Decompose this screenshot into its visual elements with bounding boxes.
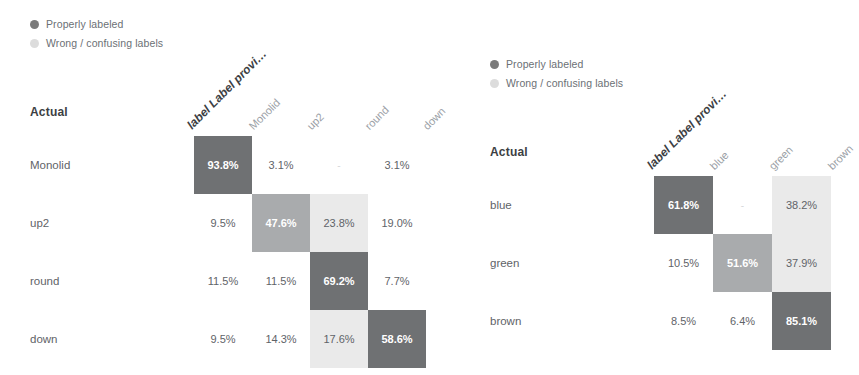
matrix-cell[interactable]: 8.5% [654, 292, 713, 350]
matrix-cell[interactable]: 69.2% [310, 252, 368, 310]
matrix-cell[interactable]: 93.8% [194, 136, 252, 194]
matrix-cell-value: 37.9% [786, 257, 817, 269]
row-label-green: green [490, 234, 640, 292]
matrix-cell[interactable]: 85.1% [772, 292, 831, 350]
matrix-cell[interactable]: 14.3% [252, 310, 310, 368]
matrix-cell-value: 51.6% [727, 257, 758, 269]
matrix-cell-value: 11.5% [208, 275, 238, 287]
matrix-cell-value: 17.6% [323, 333, 354, 345]
legend-item-properly-labeled: Properly labeled [490, 56, 623, 72]
matrix-row: down9.5%14.3%17.6%58.6% [194, 310, 426, 368]
matrix-cell-value: 61.8% [668, 199, 699, 211]
column-header-up2: up2 [304, 111, 325, 132]
row-label-down: down [30, 310, 180, 368]
matrix-cell-value: 11.5% [266, 275, 296, 287]
matrix-cell[interactable]: 9.5% [194, 310, 252, 368]
matrix-cell[interactable]: 11.5% [252, 252, 310, 310]
matrix-cell[interactable]: 3.1% [368, 136, 426, 194]
matrix-row: up29.5%47.6%23.8%19.0% [194, 194, 426, 252]
matrix-cell[interactable]: 9.5% [194, 194, 252, 252]
matrix-cell-value: 14.3% [265, 333, 296, 345]
matrix-cell[interactable]: 10.5% [654, 234, 713, 292]
matrix-cell-value: 38.2% [786, 199, 817, 211]
matrix-cell[interactable]: 6.4% [713, 292, 772, 350]
row-label-blue: blue [490, 176, 640, 234]
matrix-cell[interactable]: 17.6% [310, 310, 368, 368]
matrix-cell[interactable]: 11.5% [194, 252, 252, 310]
legend-item-properly-labeled: Properly labeled [30, 16, 163, 32]
column-header-brown: brown [825, 142, 855, 172]
matrix-cell-value: 8.5% [671, 315, 696, 327]
matrix-cell[interactable]: 61.8% [654, 176, 713, 234]
row-label-monolid: Monolid [30, 136, 180, 194]
matrix-cell-value: 85.1% [786, 315, 817, 327]
axis-title-actual-right: Actual [490, 132, 640, 172]
matrix-cell-value: 9.5% [210, 333, 235, 345]
matrix-cell[interactable]: 3.1% [252, 136, 310, 194]
legend-label-properly-labeled: Properly labeled [506, 58, 583, 70]
legend-right: Properly labeled Wrong / confusing label… [490, 56, 623, 94]
axis-title-actual-right-text: Actual [490, 145, 528, 159]
matrix-cell[interactable]: 23.8% [310, 194, 368, 252]
matrix-cell[interactable]: 58.6% [368, 310, 426, 368]
matrix-cell-value: 23.8% [323, 217, 354, 229]
matrix-cell-value: 6.4% [730, 315, 755, 327]
matrix-grid-right: blue61.8%-38.2%green10.5%51.6%37.9%brown… [654, 176, 831, 350]
matrix-cell-value: 58.6% [381, 333, 412, 345]
legend-swatch-properly-labeled [490, 60, 499, 69]
matrix-cell[interactable]: 7.7% [368, 252, 426, 310]
matrix-cell-value: - [337, 160, 340, 171]
matrix-cell[interactable]: 19.0% [368, 194, 426, 252]
matrix-row: Monolid93.8%3.1%-3.1% [194, 136, 426, 194]
legend-swatch-wrong-labels [30, 39, 39, 48]
matrix-cell[interactable]: 47.6% [252, 194, 310, 252]
legend-swatch-properly-labeled [30, 20, 39, 29]
matrix-cell-value: 19.0% [381, 217, 412, 229]
matrix-cell[interactable]: 37.9% [772, 234, 831, 292]
row-label-up2: up2 [30, 194, 180, 252]
legend-label-properly-labeled: Properly labeled [46, 18, 123, 30]
matrix-cell-value: - [741, 200, 744, 211]
matrix-row: brown8.5%6.4%85.1% [654, 292, 831, 350]
column-header-down: down [420, 105, 447, 132]
matrix-cell-value: 3.1% [268, 159, 293, 171]
row-label-brown: brown [490, 292, 640, 350]
matrix-cell-value: 47.6% [265, 217, 296, 229]
column-header-green: green [766, 144, 794, 172]
matrix-row: green10.5%51.6%37.9% [654, 234, 831, 292]
matrix-cell-value: 93.8% [207, 159, 238, 171]
axis-title-actual-left: Actual [30, 92, 180, 132]
matrix-row: blue61.8%-38.2% [654, 176, 831, 234]
column-header-blue: blue [707, 149, 730, 172]
matrix-cell[interactable]: 51.6% [713, 234, 772, 292]
legend-swatch-wrong-labels [490, 79, 499, 88]
matrix-grid-left: Monolid93.8%3.1%-3.1%up29.5%47.6%23.8%19… [194, 136, 426, 368]
legend-label-wrong-labels: Wrong / confusing labels [506, 77, 623, 89]
row-label-round: round [30, 252, 180, 310]
legend-item-wrong-labels: Wrong / confusing labels [490, 75, 623, 91]
legend-label-wrong-labels: Wrong / confusing labels [46, 37, 163, 49]
matrix-cell[interactable]: - [310, 136, 368, 194]
matrix-row: round11.5%11.5%69.2%7.7% [194, 252, 426, 310]
matrix-cell-value: 10.5% [668, 257, 699, 269]
column-header-monolid: Monolid [246, 96, 282, 132]
legend-item-wrong-labels: Wrong / confusing labels [30, 35, 163, 51]
matrix-cell-value: 69.2% [323, 275, 354, 287]
matrix-cell-value: 9.5% [210, 217, 235, 229]
matrix-cell-value: 3.1% [384, 159, 409, 171]
legend-left: Properly labeled Wrong / confusing label… [30, 16, 163, 54]
matrix-cell-value: 7.7% [384, 275, 409, 287]
matrix-cell[interactable]: - [713, 176, 772, 234]
matrix-cell[interactable]: 38.2% [772, 176, 831, 234]
column-header-round: round [362, 104, 390, 132]
axis-title-actual-left-text: Actual [30, 105, 68, 119]
